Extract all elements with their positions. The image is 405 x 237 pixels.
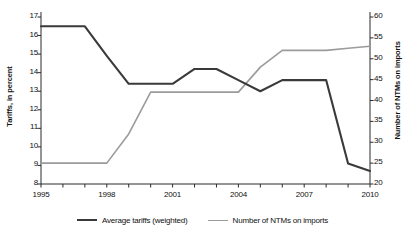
legend-item-1[interactable]: Average tariffs (weighted) bbox=[77, 216, 188, 225]
series-line-1 bbox=[41, 26, 370, 171]
legend-item-2[interactable]: Number of NTMs on imports bbox=[208, 216, 328, 225]
legend-swatch-1 bbox=[77, 219, 97, 221]
plot-area bbox=[0, 0, 405, 237]
legend-swatch-2 bbox=[208, 220, 228, 221]
legend-label-1: Average tariffs (weighted) bbox=[102, 216, 188, 225]
series-line-2 bbox=[41, 46, 370, 163]
chart-legend: Average tariffs (weighted)Number of NTMs… bbox=[0, 208, 405, 232]
legend-label-2: Number of NTMs on imports bbox=[233, 216, 328, 225]
chart-figure: Tariffs, in percent Number of NTMs on im… bbox=[0, 0, 405, 237]
